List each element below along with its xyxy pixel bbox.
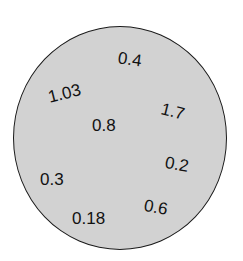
value-label: 0.8: [92, 117, 116, 134]
value-label: 0.18: [72, 210, 105, 227]
value-label: 0.6: [143, 197, 169, 218]
value-label: 0.4: [117, 49, 143, 69]
value-label: 0.2: [164, 154, 190, 175]
value-label: 0.3: [40, 171, 64, 188]
